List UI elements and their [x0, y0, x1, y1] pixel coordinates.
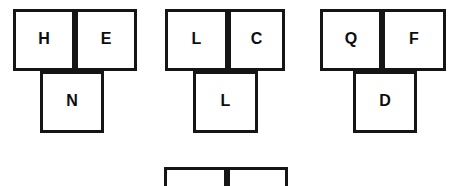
cell-h: H [13, 9, 75, 71]
cell-e: E [75, 9, 137, 71]
cell-letter: H [38, 31, 50, 47]
cell-letter: E [101, 31, 112, 47]
cell-letter: C [251, 31, 263, 47]
cell-l1: L [165, 9, 228, 71]
cell-l2: L [193, 71, 258, 133]
cell-partial-right [227, 167, 288, 186]
cell-d: D [353, 71, 417, 133]
cell-letter: Q [345, 31, 357, 47]
cell-q: Q [320, 9, 382, 71]
cell-n: N [40, 71, 104, 133]
cell-letter: D [379, 93, 391, 109]
cell-letter: L [192, 31, 202, 47]
cell-c: C [228, 9, 285, 71]
cell-partial-left [164, 167, 227, 186]
cell-f: F [382, 9, 446, 71]
cell-letter: L [221, 93, 231, 109]
figure-canvas: HENLCLQFD [0, 0, 452, 186]
cell-letter: N [66, 93, 78, 109]
cell-letter: F [409, 31, 419, 47]
